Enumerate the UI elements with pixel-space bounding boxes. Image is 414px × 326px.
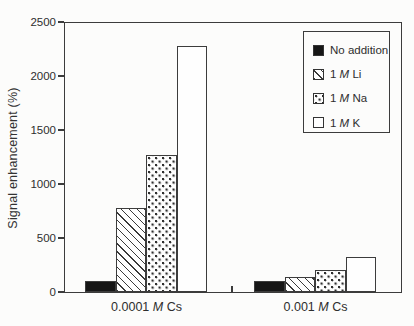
label-italic-part: M (340, 68, 350, 80)
bar-solid-black-group1 (85, 281, 116, 292)
bar-open-white-group1 (177, 46, 208, 292)
y-tick-label: 1500 (0, 123, 56, 137)
label-text-part: No addition (330, 44, 388, 56)
label-text-part: 1 (330, 68, 340, 80)
y-tick-mark (58, 75, 64, 77)
legend-item: 1 M K (313, 111, 389, 135)
label-italic-part: M (340, 92, 350, 104)
legend-item: 1 M Li (313, 62, 389, 86)
bar-diagonal-hatch-group1 (116, 208, 147, 292)
bar-dotted-group1 (146, 155, 177, 292)
label-text-part: Cs (329, 300, 348, 314)
bar-diagonal-hatch-group2 (285, 277, 316, 292)
y-tick-mark (58, 21, 64, 23)
label-italic-part: M (318, 300, 328, 314)
solid-black-swatch-icon (313, 45, 324, 56)
label-italic-part: M (153, 300, 163, 314)
legend-item: 1 M Na (313, 86, 389, 110)
diagonal-hatch-swatch-icon (313, 69, 324, 80)
open-white-swatch-icon (313, 117, 324, 128)
y-tick-mark (58, 291, 64, 293)
x-axis-category-tick (231, 286, 233, 293)
y-tick-label: 500 (0, 231, 56, 245)
x-category-label: 0.001 M Cs (246, 300, 386, 314)
label-italic-part: M (340, 117, 350, 129)
legend-item-label: 1 M Li (330, 68, 361, 80)
bar-solid-black-group2 (254, 281, 285, 292)
bar-dotted-group2 (315, 270, 346, 292)
label-text-part: Na (349, 92, 367, 104)
y-tick-mark (58, 129, 64, 131)
y-tick-label: 2000 (0, 69, 56, 83)
label-text-part: 1 (330, 92, 340, 104)
x-category-label: 0.0001 M Cs (77, 300, 217, 314)
y-tick-mark (58, 237, 64, 239)
legend-item: No addition (313, 38, 389, 62)
legend-item-label: No addition (330, 44, 388, 56)
y-axis-title: Signal enhancement (%) (6, 87, 20, 228)
y-tick-label: 1000 (0, 177, 56, 191)
label-text-part: K (349, 117, 360, 129)
label-text-part: Li (349, 68, 361, 80)
label-text-part: 0.001 (284, 300, 319, 314)
y-tick-label: 2500 (0, 15, 56, 29)
y-tick-label: 0 (0, 285, 56, 299)
bar-open-white-group2 (346, 257, 377, 292)
label-text-part: Cs (163, 300, 182, 314)
legend-item-label: 1 M K (330, 117, 360, 129)
legend: No addition1 M Li1 M Na1 M K (303, 31, 390, 133)
dotted-swatch-icon (313, 93, 324, 104)
label-text-part: 1 (330, 117, 340, 129)
bar-chart-figure: Signal enhancement (%) 05001000150020002… (0, 0, 414, 326)
label-text-part: 0.0001 (111, 300, 153, 314)
y-tick-mark (58, 183, 64, 185)
legend-item-label: 1 M Na (330, 92, 367, 104)
